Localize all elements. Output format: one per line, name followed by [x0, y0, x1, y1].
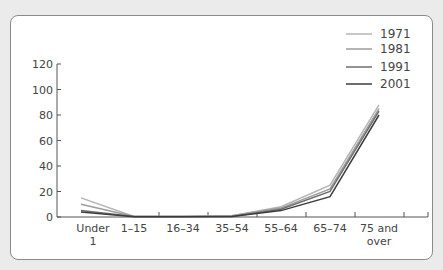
x-tick-label: 75 and [360, 222, 398, 235]
legend: 1971198119912001 [346, 27, 411, 91]
series-line-1971 [81, 105, 379, 217]
axes: 020406080100120Under11–1516–3435–5455–64… [32, 58, 428, 248]
x-tick-label: 1 [90, 235, 97, 248]
y-tick-label: 20 [39, 186, 53, 199]
series-line-1981 [81, 109, 379, 217]
y-tick-label: 120 [32, 58, 53, 71]
legend-label: 1981 [380, 42, 411, 56]
line-chart: 020406080100120Under11–1516–3435–5455–64… [0, 0, 443, 270]
x-tick-label: 55–64 [264, 222, 298, 235]
x-tick-label: 16–34 [166, 222, 200, 235]
series-line-1991 [81, 111, 379, 216]
x-tick-label: 35–54 [215, 222, 249, 235]
x-tick-label: 65–74 [313, 222, 347, 235]
x-tick-label: over [367, 235, 392, 248]
legend-label: 1971 [380, 27, 411, 41]
y-tick-label: 40 [39, 160, 53, 173]
y-tick-label: 80 [39, 109, 53, 122]
x-tick-label: Under [76, 222, 110, 235]
x-tick-label: 1–15 [121, 222, 148, 235]
legend-label: 1991 [380, 60, 411, 74]
y-tick-label: 60 [39, 135, 53, 148]
legend-label: 2001 [380, 77, 411, 91]
y-tick-label: 0 [46, 211, 53, 224]
series-lines [81, 105, 379, 217]
y-tick-label: 100 [32, 84, 53, 97]
series-line-2001 [81, 115, 379, 217]
